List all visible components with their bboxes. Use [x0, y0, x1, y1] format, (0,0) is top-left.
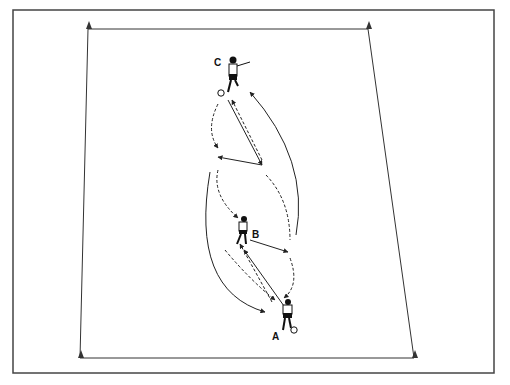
player-a-icon — [283, 299, 297, 333]
label-b: B — [252, 229, 259, 240]
player-b-icon — [237, 216, 247, 244]
label-a: A — [272, 331, 279, 342]
outer-frame — [13, 10, 494, 373]
field-boundary — [80, 29, 414, 358]
label-c: C — [214, 57, 221, 68]
corner-flag-icon — [78, 21, 418, 358]
player-c-icon — [218, 57, 250, 97]
drill-diagram: C B A — [0, 0, 510, 385]
